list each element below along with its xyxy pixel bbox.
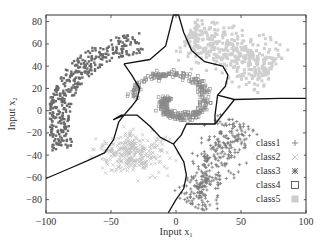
y-tick-label: −40 — [26, 150, 42, 161]
open-square-marker-icon — [292, 182, 299, 189]
y-tick-label: −20 — [26, 127, 42, 138]
boundary-star-left — [124, 64, 140, 115]
y-tick-label: 0 — [37, 105, 42, 116]
legend-label-class2: class2 — [256, 151, 280, 162]
y-tick-label: −80 — [26, 194, 42, 205]
y-tick-label: 40 — [32, 61, 42, 72]
x-tick-label: −100 — [36, 216, 57, 227]
x-tick-label: −50 — [103, 216, 119, 227]
scatter-chart: −100−50050100 −80−60−40−20020406080 Inpu… — [0, 0, 326, 247]
boundary-right-join — [215, 100, 235, 125]
legend-label-class5: class5 — [256, 193, 280, 204]
y-tick-labels: −80−60−40−20020406080 — [26, 16, 42, 205]
y-tick-label: 80 — [32, 16, 42, 27]
y-tick-label: 20 — [32, 83, 42, 94]
legend-label-class1: class1 — [256, 137, 280, 148]
x-tick-label: 100 — [299, 216, 314, 227]
legend-label-class4: class4 — [256, 179, 280, 190]
y-tick-label: −60 — [26, 172, 42, 183]
filled-square-marker-icon — [292, 196, 299, 203]
legend: class1 class2 class3 class4 class5 — [252, 136, 304, 204]
asterisk-marker-icon — [292, 168, 298, 174]
x-axis-label: Input x1 — [159, 226, 192, 238]
legend-label-class3: class3 — [256, 165, 280, 176]
x-tick-label: 50 — [236, 216, 246, 227]
y-tick-label: 60 — [32, 38, 42, 49]
y-axis-label: Input x2 — [6, 97, 18, 130]
